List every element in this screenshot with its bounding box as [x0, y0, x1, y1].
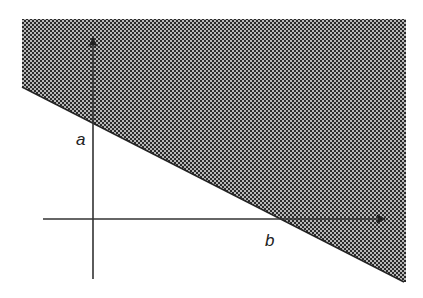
- diagram-canvas: a b: [0, 0, 423, 298]
- label-a: a: [76, 130, 85, 149]
- shaded-region: [22, 19, 406, 282]
- label-b: b: [265, 231, 274, 250]
